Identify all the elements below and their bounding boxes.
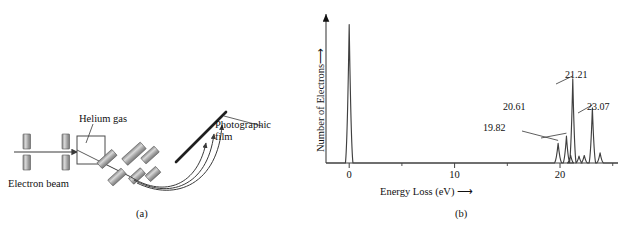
x-axis-arrow-glyph: ⟶ xyxy=(457,186,472,197)
photographic-film-label-line1: Photographic xyxy=(215,119,271,131)
panel-a-apparatus-diagram: Helium gas Electron beam Photographic fi… xyxy=(0,0,300,230)
x-axis-title-text: Energy Loss (eV) xyxy=(380,186,454,197)
panel-b-spectrum-chart: Number of Electrons⟶ Energy Loss (eV) ⟶ … xyxy=(300,0,629,230)
analyzer-plate-6 xyxy=(145,166,161,181)
photographic-film-label-line2: film xyxy=(215,131,233,143)
y-axis-title: Number of Electrons⟶ xyxy=(314,49,326,152)
figure-container: Helium gas Electron beam Photographic fi… xyxy=(0,0,629,230)
collimator-slit-1-bottom xyxy=(23,155,31,170)
spectrum-trace xyxy=(326,25,618,163)
peak-leader-lines xyxy=(522,76,592,141)
x-axis-title: Energy Loss (eV) ⟶ xyxy=(380,185,472,197)
peak-label-20-61: 20.61 xyxy=(503,101,526,112)
panel-a-caption: (a) xyxy=(136,208,148,219)
analyzer-plate-group xyxy=(97,142,161,186)
helium-gas-label: Helium gas xyxy=(79,113,127,125)
collimator-slit-2-bottom xyxy=(62,155,70,170)
peak-label-19-82: 19.82 xyxy=(483,122,506,133)
apparatus-schematic xyxy=(0,0,300,230)
peak-leader-20-61 xyxy=(541,133,566,138)
x-axis-tick-label: 0 xyxy=(335,169,363,180)
x-axis-ticks xyxy=(349,163,613,168)
y-axis-title-text: Number of Electrons xyxy=(315,64,326,152)
collimator-slit-1-top xyxy=(23,134,31,149)
analyzer-plate-2 xyxy=(108,168,127,186)
electron-beam-label: Electron beam xyxy=(8,178,69,190)
x-axis-tick-label: 20 xyxy=(546,169,574,180)
analyzer-plate-3 xyxy=(122,142,147,165)
peak-label-21-21: 21.21 xyxy=(565,69,588,80)
collimator-slit-2-top xyxy=(62,134,70,149)
peak-label-23-07: 23.07 xyxy=(587,101,610,112)
y-axis-arrow-glyph: ⟶ xyxy=(315,49,326,64)
panel-b-caption: (b) xyxy=(455,208,467,219)
x-axis-tick-label: 10 xyxy=(441,169,469,180)
